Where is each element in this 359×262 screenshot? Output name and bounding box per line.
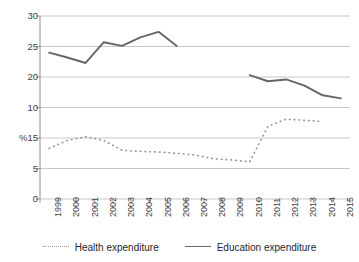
- x-axis-label-1999: 1999: [53, 205, 63, 217]
- x-axis-label-text: 2000: [71, 197, 81, 217]
- y-axis-label-15: 10: [0, 103, 38, 113]
- x-axis-label-text: 2001: [90, 197, 100, 217]
- x-axis-label-2004: 2004: [144, 205, 154, 217]
- x-axis-label-2007: 2007: [199, 205, 209, 217]
- x-axis-label-2006: 2006: [181, 205, 191, 217]
- x-axis-label-text: 2008: [217, 197, 227, 217]
- x-axis-label-2010: 2010: [254, 205, 264, 217]
- x-axis-label-text: 2006: [181, 197, 191, 217]
- x-axis-label-2009: 2009: [235, 205, 245, 217]
- y-axis-label-25: 25: [0, 42, 38, 52]
- x-axis-label-2008: 2008: [217, 205, 227, 217]
- x-axis-label-2002: 2002: [108, 205, 118, 217]
- chart-legend: Health expenditureEducation expenditure: [0, 238, 359, 256]
- series-education-expenditure: [49, 32, 341, 98]
- x-axis-label-2013: 2013: [308, 205, 318, 217]
- x-axis-label-text: 2012: [290, 197, 300, 217]
- legend-label: Education expenditure: [217, 242, 317, 253]
- x-axis-label-text: 2004: [144, 197, 154, 217]
- legend-item-2[interactable]: Education expenditure: [185, 242, 317, 253]
- y-axis-label-30: 30: [0, 11, 38, 21]
- legend-label: Health expenditure: [75, 242, 159, 253]
- x-axis-label-2011: 2011: [272, 205, 282, 217]
- x-axis-label-text: 2009: [235, 197, 245, 217]
- x-axis-label-2015: 2015: [345, 205, 355, 217]
- x-axis-label-text: 2015: [345, 197, 355, 217]
- education-line-segment-1: [49, 32, 177, 63]
- x-axis-label-text: 2010: [254, 197, 264, 217]
- gridlines: [40, 16, 350, 199]
- y-axis-label-10: %15: [0, 133, 38, 143]
- line-chart: 05%1510202530 19992000200120022003200420…: [0, 0, 359, 262]
- y-axis-label-20: 20: [0, 72, 38, 82]
- x-axis-label-2005: 2005: [163, 205, 173, 217]
- series-health-expenditure: [49, 119, 323, 162]
- x-axis-label-text: 2005: [163, 197, 173, 217]
- x-axis-label-2014: 2014: [327, 205, 337, 217]
- x-axis-label-text: 1999: [53, 197, 63, 217]
- x-axis-label-2003: 2003: [126, 205, 136, 217]
- legend-swatch-dotted-icon: [43, 242, 69, 252]
- x-axis-label-2012: 2012: [290, 205, 300, 217]
- x-axis-label-text: 2014: [327, 197, 337, 217]
- x-axis-label-2001: 2001: [90, 205, 100, 217]
- legend-item-1[interactable]: Health expenditure: [43, 242, 159, 253]
- x-axis-tick-marks: [36, 16, 350, 203]
- y-axis-label-0: 0: [0, 194, 38, 204]
- x-axis-label-text: 2007: [199, 197, 209, 217]
- x-axis-label-text: 2002: [108, 197, 118, 217]
- x-axis-label-text: 2013: [308, 197, 318, 217]
- x-axis-label-text: 2011: [272, 198, 282, 217]
- y-axis-label-5: 5: [0, 164, 38, 174]
- x-axis-label-2000: 2000: [71, 205, 81, 217]
- health-dotted-line: [49, 119, 323, 162]
- education-line-segment-2: [250, 75, 341, 98]
- legend-swatch-solid-icon: [185, 242, 211, 252]
- plot-area: [0, 0, 359, 262]
- x-axis-label-text: 2003: [126, 197, 136, 217]
